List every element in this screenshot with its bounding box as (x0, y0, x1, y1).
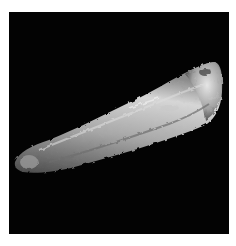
specimen-image (9, 12, 229, 234)
specimen-body (15, 62, 222, 173)
micrograph-panel (9, 12, 229, 234)
